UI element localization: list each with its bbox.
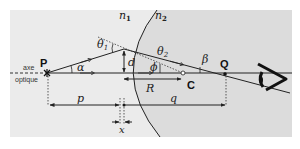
label-p: p bbox=[77, 92, 84, 105]
label-phi: ϕ bbox=[150, 61, 158, 74]
point-Q bbox=[223, 72, 227, 76]
label-R: R bbox=[145, 82, 154, 95]
label-beta: β bbox=[201, 53, 208, 66]
label-axe: axe bbox=[23, 64, 34, 71]
label-P: P bbox=[40, 57, 47, 69]
label-alpha: α bbox=[77, 61, 85, 74]
label-d: d bbox=[128, 56, 135, 69]
label-x: x bbox=[119, 124, 125, 135]
label-Q: Q bbox=[220, 58, 229, 70]
label-optique: optique bbox=[15, 76, 38, 84]
point-C bbox=[181, 71, 185, 75]
refraction-diagram: n1 n2 θ1 θ2 α β ϕ d R p q x P Q C axe op… bbox=[0, 0, 300, 149]
label-C: C bbox=[187, 79, 195, 91]
label-q: q bbox=[170, 92, 177, 105]
